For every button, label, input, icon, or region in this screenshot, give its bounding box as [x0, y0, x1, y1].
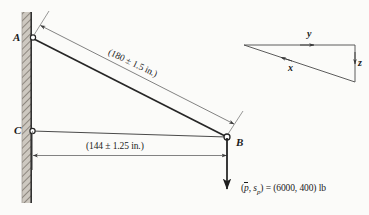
axis-label-x: x [288, 62, 293, 73]
load-values: ) = (6000, 400) lb [260, 183, 326, 193]
coordinate-triad [244, 45, 355, 82]
point-label-B: B [236, 136, 243, 148]
load-label: (p, sp) = (6000, 400) lb [241, 183, 326, 196]
axis-label-y: y [307, 28, 311, 39]
point-label-C: C [14, 124, 21, 136]
member-CB [32, 131, 227, 137]
axis-label-z: z [358, 57, 362, 68]
member-AB [32, 38, 227, 137]
fixed-wall [22, 12, 31, 203]
dimension-line-AB [34, 11, 243, 134]
dimension-label-cb: (144 ± 1.25 in.) [86, 141, 144, 151]
load-mean-symbol: p [244, 183, 249, 193]
point-label-A: A [13, 31, 20, 43]
joint-A [30, 35, 35, 40]
